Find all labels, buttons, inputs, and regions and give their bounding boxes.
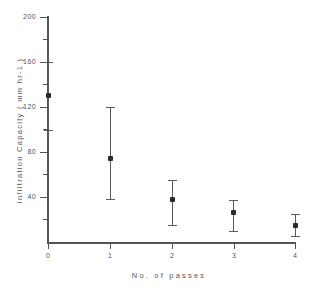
error-bar-cap-lower <box>44 130 53 131</box>
y-tick-120 <box>40 107 48 108</box>
error-bar-stem <box>172 180 173 225</box>
error-bar-stem <box>233 200 234 230</box>
x-tick-label-1: 1 <box>100 252 120 260</box>
data-point-marker <box>46 93 51 98</box>
y-tick-minor-60 <box>43 174 48 175</box>
x-tick-3 <box>234 244 235 249</box>
data-point-marker <box>170 197 175 202</box>
x-tick-0 <box>48 244 49 249</box>
x-tick-4 <box>295 244 296 249</box>
error-bar-cap-upper <box>168 180 177 181</box>
x-tick-label-3: 3 <box>224 252 244 260</box>
x-tick-1 <box>110 244 111 249</box>
error-bar-cap-upper <box>291 214 300 215</box>
y-tick-200 <box>40 17 48 18</box>
error-bar-cap-lower <box>168 225 177 226</box>
error-bar-cap-upper <box>229 200 238 201</box>
data-point-marker <box>231 210 236 215</box>
x-tick-label-0: 0 <box>38 252 58 260</box>
error-bar-cap-lower <box>291 236 300 237</box>
x-tick-label-4: 4 <box>285 252 305 260</box>
x-axis-title: No. of passes <box>0 271 312 280</box>
y-tick-80 <box>40 152 48 153</box>
x-tick-label-2: 2 <box>162 252 182 260</box>
y-tick-minor-20 <box>43 219 48 220</box>
error-bar-cap-upper <box>44 62 53 63</box>
error-bar-stem <box>110 107 111 199</box>
x-tick-2 <box>172 244 173 249</box>
error-bar-cap-upper <box>106 107 115 108</box>
y-axis-title: Infiltration Capacity ( mm hr-1 ) <box>15 46 24 216</box>
data-point-marker <box>293 223 298 228</box>
y-tick-label-200: 200 <box>2 13 36 20</box>
error-bar-cap-lower <box>106 199 115 200</box>
error-bar-cap-lower <box>229 231 238 232</box>
data-point-marker <box>108 156 113 161</box>
chart-canvas: 200 160 120 80 40 Infiltration Capacity … <box>0 0 312 298</box>
y-tick-minor-180 <box>43 39 48 40</box>
y-tick-40 <box>40 197 48 198</box>
